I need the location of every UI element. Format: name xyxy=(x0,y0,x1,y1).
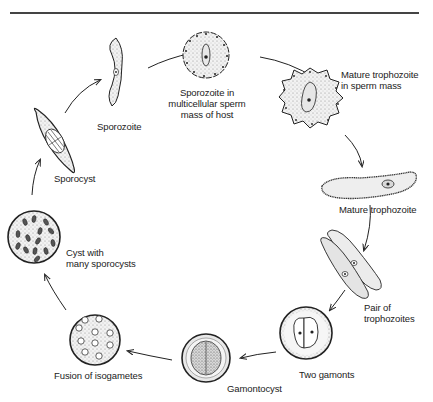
two-gamonts-drawing xyxy=(280,307,332,359)
label-line: multicellular sperm xyxy=(165,98,249,109)
sporozoite-drawing xyxy=(109,38,122,106)
label-fusion-of-isogametes: Fusion of isogametes xyxy=(54,370,142,381)
gamontocyst-drawing xyxy=(182,334,230,382)
label-line: in sperm mass xyxy=(341,80,418,91)
arrow-to-cyst xyxy=(45,275,66,310)
cyst-with-sporocysts-drawing xyxy=(8,211,60,263)
label-two-gamonts: Two gamonts xyxy=(299,369,354,380)
arrow-to-sporozoite xyxy=(65,80,100,113)
sporocyst-drawing xyxy=(34,108,74,172)
arrow-to-fusion xyxy=(128,351,172,360)
label-line: mass of host xyxy=(165,109,249,120)
arrow-to-gamontocyst xyxy=(241,352,276,358)
arrow-to-sporocyst xyxy=(32,160,40,195)
label-pair-of-trophozoites: Pair of trophozoites xyxy=(364,302,415,324)
arrow-to-mature-trophozoite xyxy=(345,135,362,166)
mature-trophozoite-in-sperm-mass-drawing xyxy=(279,68,343,128)
sporozoite-in-sperm-mass-drawing xyxy=(183,32,229,78)
label-cyst-with-sporocysts: Cyst with many sporocysts xyxy=(66,247,136,269)
label-line: many sporocysts xyxy=(66,258,136,269)
label-line: Pair of xyxy=(364,302,415,313)
label-mature-trophozoite: Mature trophozoite xyxy=(339,204,416,215)
label-line: Cyst with xyxy=(66,247,136,258)
label-line: Sporozoite in xyxy=(165,87,249,98)
pair-of-trophozoites-drawing xyxy=(321,230,382,298)
label-gamontocyst: Gamontocyst xyxy=(227,383,282,394)
label-sporocyst: Sporocyst xyxy=(54,173,95,184)
label-line: trophozoites xyxy=(364,313,415,324)
arrow-to-two-gamonts xyxy=(330,290,345,310)
label-line: Mature trophozoite xyxy=(341,69,418,80)
label-sporozoite-in-sperm-mass: Sporozoite in multicellular sperm mass o… xyxy=(165,87,249,120)
fusion-of-isogametes-drawing xyxy=(70,315,120,365)
life-cycle-diagram xyxy=(0,0,433,402)
mature-trophozoite-drawing xyxy=(322,172,417,199)
label-mature-trophozoite-in-sperm-mass: Mature trophozoite in sperm mass xyxy=(341,69,418,91)
label-sporozoite: Sporozoite xyxy=(97,121,141,132)
